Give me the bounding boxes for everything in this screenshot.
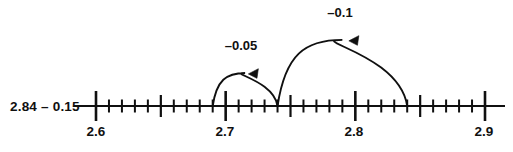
jump-arc-1	[213, 73, 278, 106]
jump-arrowhead-1	[248, 69, 258, 79]
tick-label-2-9: 2.9	[475, 124, 494, 139]
jump-label-minus-0-1: –0.1	[327, 5, 352, 20]
tick-label-2-8: 2.8	[345, 124, 364, 139]
expression-label: 2.84 – 0.15	[10, 99, 80, 114]
tick-label-2-6: 2.6	[87, 124, 106, 139]
tick-label-2-7: 2.7	[216, 124, 235, 139]
number-line-graphic	[0, 0, 513, 152]
jump-arrowhead-2	[349, 36, 359, 46]
jump-label-minus-0-05: –0.05	[225, 38, 258, 53]
jump-arc-2	[278, 40, 408, 106]
number-line-figure: 2.84 – 0.15 2.6 2.7 2.8 2.9 –0.05 –0.1	[0, 0, 513, 152]
